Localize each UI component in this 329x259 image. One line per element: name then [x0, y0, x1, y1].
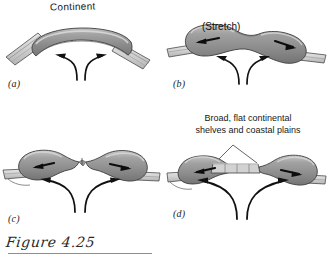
- panel-d-letter: (d): [173, 208, 185, 219]
- panel-b: (Stretch) (b): [165, 0, 329, 120]
- panel-a-graphic: [0, 0, 165, 120]
- figure-caption: Figure 4.25: [6, 233, 206, 251]
- panel-b-letter: (b): [173, 78, 185, 89]
- upwelling-arrowheads: [216, 56, 270, 61]
- label-stretch: (Stretch): [202, 21, 240, 32]
- figure-container: Continent (a): [0, 0, 329, 259]
- label-continent: Continent: [50, 0, 96, 12]
- panel-a: Continent (a): [0, 0, 165, 120]
- panel-c-graphic: [0, 120, 165, 235]
- caption-underline: [8, 253, 152, 254]
- panel-c: (c): [0, 120, 165, 235]
- mantle-upwelling-arrows: [203, 181, 283, 219]
- upwelling-arrowheads: [55, 54, 107, 59]
- label-shelves: Broad, flat continental shelves and coas…: [173, 113, 323, 136]
- figure-caption-text: Figure 4.25: [5, 234, 96, 250]
- mantle-upwelling-arrows: [221, 58, 265, 84]
- continental-shelves: [211, 164, 260, 173]
- label-shelves-line1: Broad, flat continental: [204, 113, 291, 123]
- panel-a-letter: (a): [8, 78, 20, 89]
- mantle-upwelling-arrows: [60, 56, 102, 80]
- panel-b-graphic: [165, 0, 329, 120]
- panel-d: Broad, flat continental shelves and coas…: [165, 115, 329, 235]
- continent-block-right: [259, 155, 318, 185]
- rift-valley: [79, 158, 86, 166]
- panel-c-letter: (c): [8, 213, 20, 224]
- label-shelves-line2: shelves and coastal plains: [195, 125, 300, 135]
- mantle-upwelling-arrows: [46, 180, 115, 212]
